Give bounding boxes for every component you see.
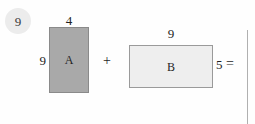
- rect-b-width-label: 9: [129, 27, 213, 40]
- equals-operator: =: [226, 57, 234, 71]
- rect-a-height-label: 9: [33, 54, 46, 67]
- diagram-canvas: 9 4 9 A + 9 B 5 =: [0, 0, 255, 124]
- rect-a-width-label: 4: [49, 14, 89, 27]
- vertical-divider-rule: [247, 30, 248, 124]
- rect-b-height-label: 5: [216, 58, 223, 71]
- step-number-badge: 9: [5, 8, 31, 34]
- rectangle-b-label: B: [167, 61, 175, 73]
- plus-operator: +: [103, 54, 111, 68]
- rectangle-b: B: [129, 45, 213, 88]
- rectangle-a-label: A: [65, 54, 74, 66]
- rectangle-a: A: [49, 27, 89, 93]
- step-number-label: 9: [15, 15, 22, 28]
